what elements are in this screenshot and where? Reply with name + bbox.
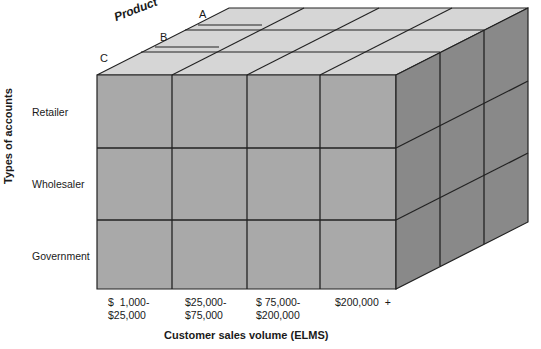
y-axis-label-wholesaler: Wholesaler	[32, 178, 85, 191]
x-axis-title: Customer sales volume (ELMS)	[164, 329, 328, 342]
y-axis-label-government: Government	[32, 250, 90, 263]
depth-label-b: B	[160, 31, 167, 44]
segmentation-cube-figure: Product A B C Types of accounts Retailer…	[0, 0, 541, 349]
depth-label-a: A	[199, 8, 206, 21]
x-axis-label-2: $ 75,000- $200,000	[256, 296, 300, 322]
x-axis-label-0: $ 1,000- $25,000	[108, 296, 149, 322]
x-axis-label-3: $200,000 +	[335, 296, 391, 309]
depth-label-c: C	[100, 52, 108, 65]
x-axis-label-1: $25,000- $75,000	[185, 296, 226, 322]
y-axis-title: Types of accounts	[2, 88, 14, 184]
y-axis-label-retailer: Retailer	[32, 106, 68, 119]
